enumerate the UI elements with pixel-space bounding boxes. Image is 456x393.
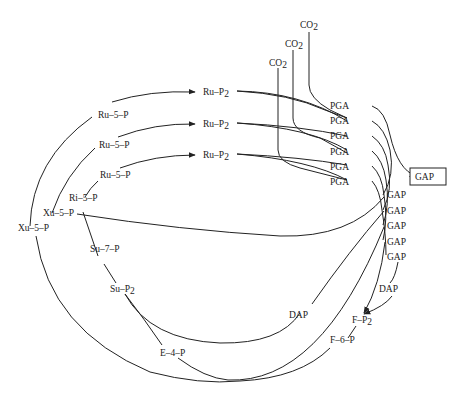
su7p-label: Su–7–P: [90, 244, 120, 254]
gap-label-5: GAP: [387, 252, 406, 262]
su-p2-label: Su–P2: [110, 284, 135, 296]
ru5p-label-3: Ru–5–P: [100, 170, 131, 180]
pga-label-5: PGA: [330, 162, 349, 172]
xu5p-to-gap-line: [77, 197, 384, 236]
sup2-e4p-line: [125, 294, 162, 345]
inner-xu5p-arc: [52, 148, 95, 213]
pga-to-gap-product-arrow: [372, 106, 416, 176]
ru-p2-label-2: Ru–P2: [203, 119, 229, 131]
gap-label-4: GAP: [387, 237, 406, 247]
ru5p-3-arrow: [120, 155, 195, 168]
co2-label-1: CO2: [300, 20, 318, 32]
f6p-label: F–6–P: [330, 335, 355, 345]
dap-label-1: DAP: [289, 310, 308, 320]
sup2-dap-arc: [125, 294, 300, 343]
pga-label-3: PGA: [330, 131, 349, 141]
calvin-cycle-diagram: CO2 CO2 CO2 Ru–P2 Ru–P2 Ru–P2 PGA PGA PG…: [0, 0, 456, 393]
ru5p-label-2: Ru–5–P: [99, 140, 130, 150]
ri5p-label: Ri–5–P: [69, 193, 98, 203]
xu5p-label-outer: Xu–5–P: [18, 223, 49, 233]
pga-label-2: PGA: [330, 116, 349, 126]
gap-label-2: GAP: [387, 206, 406, 216]
dap-to-gap-line: [312, 211, 384, 304]
xu5p-label-inner: Xu–5–P: [43, 208, 74, 218]
pga-gap-line-4: [372, 151, 387, 225]
co2-label-2: CO2: [285, 39, 303, 51]
ru-p2-label-3: Ru–P2: [203, 150, 229, 162]
pga-label-4: PGA: [330, 147, 349, 157]
outer-xu5p-arc-bottom: [36, 236, 330, 382]
gap-to-dap-line: [390, 262, 398, 283]
gap-label-3: GAP: [387, 221, 406, 231]
gap-to-fp2-arrow: [364, 242, 385, 313]
ru5p-label-1: Ru–5–P: [98, 110, 129, 120]
e4p-label: E–4–P: [160, 348, 185, 358]
gap-product-label: GAP: [415, 172, 434, 182]
ru5p-1-arrow: [112, 92, 195, 102]
dap-label-2: DAP: [379, 284, 398, 294]
pga-label-6: PGA: [330, 177, 349, 187]
f-p2-label: F–P2: [352, 315, 372, 327]
su7p-sup2-line: [104, 264, 116, 283]
gap-label-1: GAP: [387, 190, 406, 200]
ru5p-2-arrow: [118, 124, 195, 137]
e4p-bottom-arc: [178, 227, 384, 380]
pga-label-1: PGA: [330, 101, 349, 111]
ru-p2-label-1: Ru–P2: [203, 87, 229, 99]
